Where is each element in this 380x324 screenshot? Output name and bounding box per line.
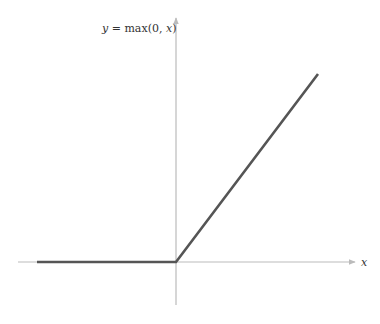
series-line-relu — [37, 74, 318, 262]
relu-chart: x y = max(0, x) — [0, 0, 380, 324]
series-layer — [37, 74, 318, 262]
function-label-eq: = — [108, 22, 124, 35]
function-label-rhs-suffix: ) — [172, 22, 176, 35]
function-label-rhs-prefix: max(0, — [124, 22, 165, 35]
function-label: y = max(0, x) — [101, 22, 176, 35]
x-axis-label: x — [361, 256, 368, 269]
